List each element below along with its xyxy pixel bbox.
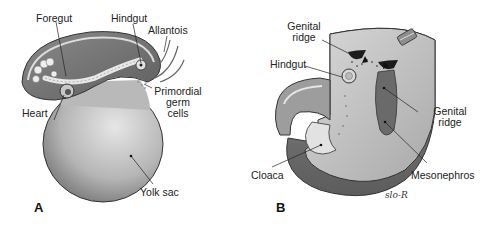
label-primordial-germ-cells: Primordial germ cells [152,86,204,119]
panel-label-a: A [34,200,43,215]
label-mesonephros: Mesonephros [411,170,475,181]
label-heart: Heart [22,108,48,119]
label-cloaca: Cloaca [251,170,284,181]
panel-label-b: B [276,200,285,215]
mesonephros-shape [375,70,397,135]
label-hindgut-b: Hindgut [270,59,306,70]
label-yolk-sac: Yolk sac [140,187,179,198]
label-allantois: Allantois [148,25,188,36]
label-genital-ridge-right-line2: ridge [430,117,470,128]
artist-signature: slo-R [385,190,408,200]
label-primordial-line3: cells [152,108,204,119]
label-genital-ridge-top: Genital ridge [286,21,322,43]
label-foregut: Foregut [36,13,72,24]
label-genital-ridge-top-line2: ridge [286,32,322,43]
embryo-diagram [0,0,495,226]
label-hindgut-a: Hindgut [111,13,147,24]
label-genital-ridge-right: Genital ridge [430,106,470,128]
